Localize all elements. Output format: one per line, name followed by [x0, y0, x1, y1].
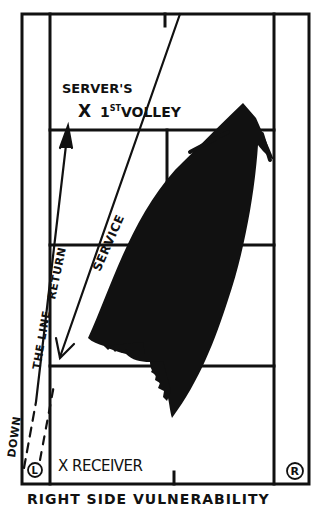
- return-dashed-guide: [40, 385, 54, 460]
- left-marker: L: [28, 463, 42, 477]
- tennis-court-diagram: L R SERVICE RETURN THE LINE DOWN SERVER'…: [0, 0, 325, 518]
- servers-label: SERVER'S: [62, 82, 133, 95]
- court-drawing: L R SERVICE RETURN THE LINE DOWN: [0, 0, 325, 518]
- right-marker: R: [287, 463, 303, 479]
- vulnerability-arrow-icon: [88, 103, 274, 418]
- receiver-label: X RECEIVER: [58, 459, 142, 474]
- first-volley-label: X 1STVOLLEY: [78, 103, 181, 120]
- right-marker-letter: R: [291, 465, 300, 478]
- volley-word: VOLLEY: [121, 104, 181, 120]
- first-ordinal: 1: [100, 104, 110, 120]
- volley-x-marker: X: [78, 101, 91, 121]
- diagram-title: RIGHT SIDE VULNERABILITY: [27, 492, 270, 506]
- left-marker-letter: L: [32, 465, 39, 476]
- first-ordinal-suffix: ST: [110, 104, 121, 113]
